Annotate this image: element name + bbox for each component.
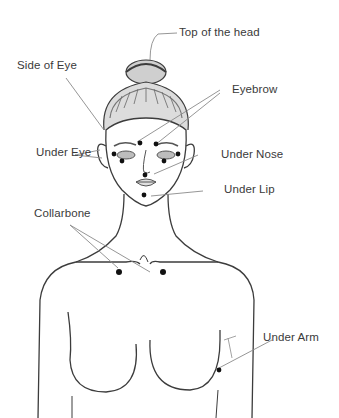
- point-under-eye-left: [120, 159, 125, 164]
- torso-outline-icon: [38, 194, 254, 418]
- point-under-lip: [142, 193, 147, 198]
- point-eyebrow-right: [154, 142, 159, 147]
- label-under-nose: Under Nose: [221, 148, 283, 160]
- label-eyebrow: Eyebrow: [232, 83, 277, 95]
- point-side-eye-left: [112, 152, 117, 157]
- point-eyebrow-left: [138, 141, 143, 146]
- label-under-lip: Under Lip: [224, 183, 275, 195]
- label-under-arm: Under Arm: [263, 331, 319, 343]
- label-side-of-eye: Side of Eye: [17, 59, 77, 71]
- point-side-eye-right: [176, 152, 181, 157]
- label-collarbone: Collarbone: [34, 207, 91, 219]
- point-collarbone-left: [116, 269, 122, 275]
- point-collarbone-right: [160, 269, 166, 275]
- tapping-points-diagram: Top of the head Side of Eye Eyebrow Unde…: [0, 0, 339, 418]
- point-under-arm: [217, 368, 222, 373]
- point-under-eye-right: [162, 159, 167, 164]
- label-top-of-head: Top of the head: [179, 26, 260, 38]
- point-under-nose: [143, 173, 148, 178]
- label-under-eye: Under Eye: [36, 146, 91, 158]
